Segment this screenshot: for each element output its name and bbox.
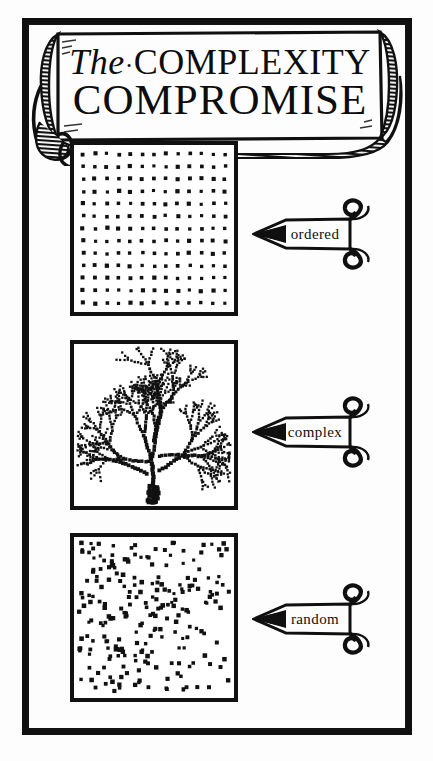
pennant-text-ordered: ordered — [276, 222, 354, 246]
random-dot-scatter — [74, 537, 234, 698]
title-line-two: COMPROMISE — [73, 78, 367, 121]
ordered-dot-grid — [74, 145, 234, 312]
panel-random — [70, 533, 238, 702]
pennant-label-complex: complex — [252, 396, 384, 468]
pennant-text-random: random — [276, 607, 354, 631]
panel-ordered — [70, 141, 238, 316]
pennant-text-complex: complex — [276, 420, 354, 444]
panel-complex — [70, 340, 238, 510]
complex-branching-tree — [74, 344, 234, 506]
pennant-label-random: random — [252, 583, 384, 655]
page-title: The·COMPLEXITY COMPROMISE — [28, 26, 406, 138]
pennant-label-ordered: ordered — [252, 198, 384, 270]
illustration-page: The·COMPLEXITY COMPROMISE ordered — [0, 0, 433, 761]
